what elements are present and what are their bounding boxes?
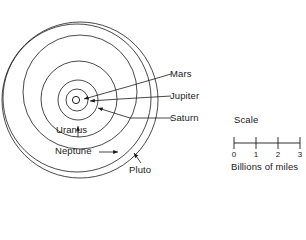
leader-pluto xyxy=(134,153,141,163)
label-neptune: Neptune xyxy=(55,145,92,156)
scale-tick-0: 0 xyxy=(229,150,239,159)
scale-tick-2: 2 xyxy=(273,150,283,159)
orbit-mars xyxy=(66,89,88,111)
scale-bar xyxy=(234,137,300,149)
label-pluto: Pluto xyxy=(129,164,151,175)
orbit-jupiter xyxy=(58,80,98,120)
scale-title: Scale xyxy=(234,114,258,125)
leader-jupiter xyxy=(90,96,171,101)
label-saturn: Saturn xyxy=(170,112,199,123)
label-jupiter: Jupiter xyxy=(170,90,199,101)
label-mars: Mars xyxy=(170,68,192,79)
scale-tick-3: 3 xyxy=(295,150,305,159)
label-uranus: Uranus xyxy=(56,124,87,135)
scale-caption: Billions of miles xyxy=(231,161,298,172)
sun-marker xyxy=(72,96,79,103)
scale-tick-1: 1 xyxy=(251,150,261,159)
